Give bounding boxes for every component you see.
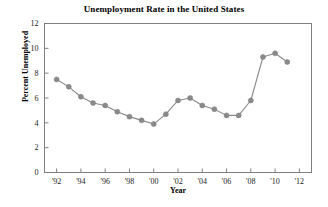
data-line [57,53,288,124]
x-tick-label: '04 [198,177,207,186]
x-tick-label: '00 [149,177,158,186]
y-tick-label: 2 [35,143,39,152]
data-point [236,113,241,118]
x-tick-label: '92 [52,177,61,186]
data-point [176,98,181,103]
chart-figure: Unemployment Rate in the United States P… [0,0,328,207]
x-tick-label: '96 [100,177,109,186]
y-tick-label: 0 [35,168,39,177]
data-point [115,109,120,114]
x-tick-label: '06 [222,177,231,186]
data-point [188,96,193,101]
data-point [54,77,59,82]
y-tick-label: 10 [31,44,39,53]
data-point [151,122,156,127]
y-axis-ticks: 024681012 [31,19,49,177]
data-point [103,103,108,108]
data-point [139,118,144,123]
plot-area: 024681012 '92'94'96'98'00'02'04'06'08'10… [0,0,328,207]
data-point [200,103,205,108]
y-tick-label: 8 [35,69,39,78]
data-point [260,55,265,60]
y-tick-label: 6 [35,94,39,103]
x-tick-label: '12 [295,177,304,186]
data-point [78,94,83,99]
x-tick-label: '08 [246,177,255,186]
data-point [163,112,168,117]
data-point [212,107,217,112]
x-tick-label: '10 [270,177,279,186]
x-tick-label: '94 [76,177,85,186]
data-point [285,59,290,64]
data-point [66,84,71,89]
data-point [248,98,253,103]
data-point [224,113,229,118]
data-point [91,100,96,105]
data-point [127,114,132,119]
x-tick-label: '02 [173,177,182,186]
y-tick-label: 12 [31,19,39,28]
x-tick-label: '98 [125,177,134,186]
y-tick-label: 4 [35,119,39,128]
data-point [273,51,278,56]
x-axis-ticks: '92'94'96'98'00'02'04'06'08'10'12 [52,169,304,186]
